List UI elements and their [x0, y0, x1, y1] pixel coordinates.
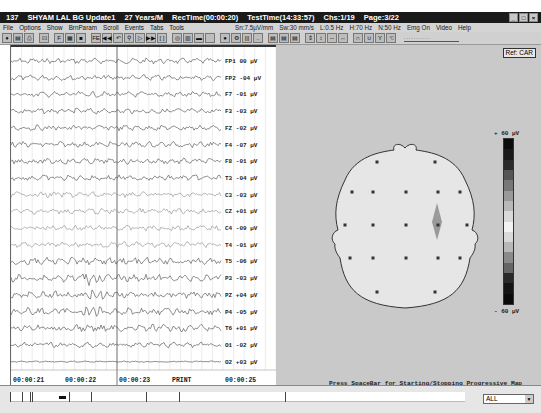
back-icon: ↶: [116, 35, 121, 41]
menu-events[interactable]: Events: [125, 24, 144, 31]
svg-text:F4 -07 µV: F4 -07 µV: [225, 142, 258, 149]
timestamp-label: 00:00:21: [13, 377, 44, 384]
mark-button[interactable]: ▷: [135, 33, 145, 43]
svg-text:O1 -02 µV: O1 -02 µV: [225, 342, 258, 349]
svg-text:F8 -01 µV: F8 -01 µV: [225, 158, 258, 165]
menu-file[interactable]: File: [3, 24, 13, 31]
eeg-waveforms: FP1 00 µVFP2 -04 µVF7 -01 µVF3 -03 µVFZ …: [11, 45, 277, 385]
fe-button[interactable]: FE: [91, 33, 101, 43]
bracket-icon: [ ]: [159, 35, 164, 41]
filter-button[interactable]: F: [54, 33, 64, 43]
widen-button[interactable]: ↔: [338, 33, 348, 43]
menu-brnparam[interactable]: BrnParam: [69, 24, 97, 31]
svg-text:O2 +03 µV: O2 +03 µV: [225, 359, 258, 366]
wave-icon: ∩: [356, 35, 360, 41]
maximize-button[interactable]: □: [519, 13, 528, 22]
filter-icon: F: [57, 35, 61, 41]
bracket-button[interactable]: [ ]: [157, 33, 167, 43]
map3-button[interactable]: ▤: [290, 33, 300, 43]
dropdown-arrow-icon[interactable]: ▼: [525, 395, 533, 403]
speed-slider[interactable]: ...........: [404, 35, 459, 42]
montage-icon: ♦: [5, 35, 8, 41]
menu-bar: File Options Show BrnParam Scroll Events…: [0, 23, 541, 32]
menu-tools[interactable]: Tools: [169, 24, 184, 31]
menu-scroll[interactable]: Scroll: [103, 24, 119, 31]
svg-text:CZ +01 µV: CZ +01 µV: [225, 208, 258, 215]
search-button[interactable]: ⚲: [124, 33, 134, 43]
test-time: TestTime(14:33:57): [247, 13, 314, 22]
columns-icon: |||: [245, 35, 250, 41]
marker-button[interactable]: Y: [375, 33, 385, 43]
settings-icon: ⚙: [234, 35, 239, 41]
montage-button[interactable]: ♦: [2, 33, 12, 43]
eeg-trace-panel[interactable]: FP1 00 µVFP2 -04 µVF7 -01 µVF3 -03 µVFZ …: [10, 45, 276, 385]
map2-button[interactable]: ▤: [279, 33, 289, 43]
fit-button[interactable]: ⊡: [39, 33, 49, 43]
low-filter-setting[interactable]: L:0.5 Hz: [320, 24, 343, 31]
sweep-setting[interactable]: Sw:30 mm/s: [279, 24, 314, 31]
sensitivity-setting[interactable]: Sn:7.5µV/mm: [235, 24, 273, 31]
reference-button[interactable]: Ref: CAR: [503, 48, 536, 58]
map3-icon: ▤: [292, 35, 298, 41]
close-button[interactable]: ×: [529, 13, 538, 22]
dots-button[interactable]: ..: [253, 33, 263, 43]
map1-icon: ▤: [270, 35, 276, 41]
patient-age-sex: 27 Years/M: [124, 13, 163, 22]
svg-text:F3 -03 µV: F3 -03 µV: [225, 108, 258, 115]
grid-button[interactable]: ▥: [183, 33, 193, 43]
menu-tabs[interactable]: Tabs: [150, 24, 163, 31]
scroll-thumb[interactable]: [59, 396, 66, 399]
page-scrollbar[interactable]: [10, 392, 465, 402]
print-button[interactable]: ⎙: [24, 33, 34, 43]
emg-setting[interactable]: Emg On: [407, 24, 430, 31]
wave2-icon: ∪: [367, 35, 371, 41]
menu-help[interactable]: Help: [458, 24, 471, 31]
scale-max-label: + 60 µV: [494, 130, 519, 137]
page-icon: ▦: [67, 35, 73, 41]
svg-text:T4 -01 µV: T4 -01 µV: [225, 242, 258, 249]
bar-button[interactable]: ▬: [194, 33, 204, 43]
high-filter-setting[interactable]: H:70 Hz: [349, 24, 372, 31]
columns-button[interactable]: |||: [242, 33, 252, 43]
menu-show[interactable]: Show: [47, 24, 63, 31]
head-map: [330, 140, 480, 320]
menu-video[interactable]: Video: [436, 24, 452, 31]
svg-text:FP2 -04 µV: FP2 -04 µV: [225, 75, 261, 82]
collapse-icon: ⇕: [308, 35, 313, 41]
svg-text:T5 -06 µV: T5 -06 µV: [225, 258, 258, 265]
wave-button[interactable]: ∩: [353, 33, 363, 43]
open-button[interactable]: ▤: [13, 33, 23, 43]
photo-button[interactable]: ◎: [172, 33, 182, 43]
expand-icon: ↕: [320, 35, 323, 41]
channel-filter-select[interactable]: ALL ▼: [483, 394, 534, 404]
forward-button[interactable]: ▶▶: [146, 33, 156, 43]
notch-filter-setting[interactable]: N:50 Hz: [378, 24, 401, 31]
fit-icon: ⊡: [42, 35, 47, 41]
grid-icon: ▥: [185, 35, 191, 41]
collapse-button[interactable]: ⇕: [305, 33, 315, 43]
cursor-button[interactable]: ☜: [386, 33, 396, 43]
minimize-button[interactable]: _: [509, 13, 518, 22]
back-button[interactable]: ↶: [113, 33, 123, 43]
map1-button[interactable]: ▤: [268, 33, 278, 43]
expand-button[interactable]: ↕: [316, 33, 326, 43]
menu-options[interactable]: Options: [19, 24, 41, 31]
forward-icon: ▶▶: [146, 35, 156, 41]
print-icon: ⎙: [27, 35, 32, 41]
timestamp-label: 00:00:22: [65, 377, 96, 384]
timestamp-label: 00:00:25: [225, 377, 256, 384]
mark-icon: ▷: [138, 35, 143, 41]
settings-button[interactable]: ⚙: [231, 33, 241, 43]
map2-icon: ▤: [281, 35, 287, 41]
wave2-button[interactable]: ∪: [364, 33, 374, 43]
blank-button[interactable]: [205, 33, 215, 43]
svg-text:P4 -05 µV: P4 -05 µV: [225, 309, 258, 316]
rewind-button[interactable]: ◀◀: [102, 33, 112, 43]
page-button[interactable]: ▦: [65, 33, 75, 43]
svg-text:C3 -03 µV: C3 -03 µV: [225, 192, 258, 199]
rec-time: RecTime(00:00:20): [172, 13, 238, 22]
block-button[interactable]: ■: [76, 33, 86, 43]
narrow-button[interactable]: ⇔: [327, 33, 337, 43]
record-button[interactable]: ●: [220, 33, 230, 43]
patient-name: SHYAM LAL BG Update1: [28, 13, 116, 22]
